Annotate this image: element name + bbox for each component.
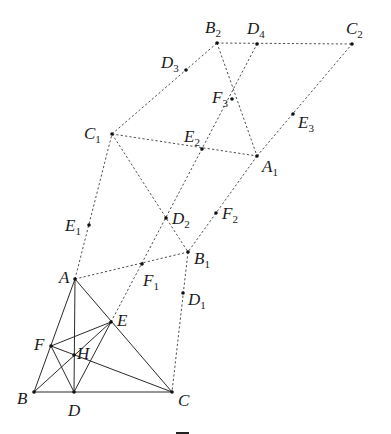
label-subscript: 1	[272, 166, 278, 178]
label-C: C	[178, 391, 190, 410]
label-E1: E1	[64, 216, 81, 237]
label-D3: D3	[160, 53, 179, 74]
label-base: D	[171, 209, 185, 228]
point-A	[73, 277, 77, 281]
label-F: F	[33, 335, 45, 354]
points	[32, 41, 354, 394]
label-subscript: 1	[204, 258, 210, 270]
label-base: F	[211, 88, 223, 107]
geometry-figure: ABCDEFHA1B1C1D1E1F1B2C2D2E2F2D3E3F3D4	[0, 0, 391, 434]
dashed-segment-C1-B1	[112, 134, 188, 252]
label-subscript: 4	[259, 28, 265, 40]
point-C2	[350, 42, 354, 46]
label-subscript: 1	[75, 225, 81, 237]
label-base: D	[187, 290, 201, 309]
solid-segment-B-E	[34, 322, 111, 392]
label-base: E	[116, 311, 128, 330]
label-subscript: 3	[308, 122, 314, 134]
label-E3: E3	[297, 113, 314, 134]
label-base: A	[261, 157, 273, 176]
point-B	[32, 390, 36, 394]
label-E: E	[116, 311, 128, 330]
point-D1	[181, 291, 185, 295]
dashed-segment-A-C1	[75, 134, 112, 279]
label-D2: D2	[171, 209, 190, 230]
dashed-segment-B2-C2	[217, 43, 352, 44]
label-base: D	[160, 53, 174, 72]
point-D	[72, 390, 76, 394]
solid-segment-A-D	[74, 279, 75, 392]
label-B1: B1	[194, 249, 210, 270]
label-base: B	[194, 249, 205, 268]
label-E2: E2	[183, 127, 200, 148]
label-base: F	[33, 335, 45, 354]
label-C1: C1	[84, 124, 101, 145]
point-E1	[87, 223, 91, 227]
dashed-segment-A-B1	[75, 252, 188, 279]
point-B2	[215, 41, 219, 45]
label-subscript: 3	[222, 97, 228, 109]
label-C2: C2	[346, 19, 363, 40]
label-subscript: 2	[194, 136, 200, 148]
label-base: A	[58, 268, 70, 287]
point-E2	[200, 147, 204, 151]
label-base: E	[64, 216, 76, 235]
dashed-segment-B1-C	[172, 252, 188, 392]
label-subscript: 2	[357, 28, 363, 40]
point-D2	[164, 216, 168, 220]
label-base: E	[183, 127, 195, 146]
label-subscript: 2	[184, 218, 190, 230]
label-D: D	[67, 401, 81, 420]
solid-lines	[34, 279, 172, 392]
label-B: B	[17, 389, 28, 408]
label-subscript: 2	[232, 213, 238, 225]
solid-segment-A-C	[75, 279, 172, 392]
label-base: D	[67, 401, 81, 420]
label-base: H	[76, 344, 91, 363]
label-base: D	[246, 19, 260, 38]
label-subscript: 2	[215, 27, 221, 39]
point-F2	[214, 211, 218, 215]
label-base: C	[346, 19, 358, 38]
label-F2: F2	[221, 204, 238, 225]
point-H	[72, 353, 76, 357]
label-subscript: 3	[173, 62, 179, 74]
label-base: B	[17, 389, 28, 408]
label-D4: D4	[246, 19, 265, 40]
point-B1	[186, 250, 190, 254]
label-base: C	[178, 391, 190, 410]
label-base: F	[142, 271, 154, 290]
label-B2: B2	[205, 18, 221, 39]
label-subscript: 1	[153, 280, 159, 292]
label-F1: F1	[142, 271, 159, 292]
point-F1	[140, 262, 144, 266]
solid-segment-C-F	[51, 346, 172, 392]
point-E3	[291, 112, 295, 116]
point-D3	[184, 68, 188, 72]
label-base: B	[205, 18, 216, 37]
solid-segment-F-E	[51, 322, 111, 346]
point-F	[49, 344, 53, 348]
label-A1: A1	[261, 157, 278, 178]
point-D4	[255, 42, 259, 46]
point-A1	[255, 154, 259, 158]
label-base: E	[297, 113, 309, 132]
label-subscript: 1	[95, 133, 101, 145]
label-subscript: 1	[200, 299, 206, 311]
dashed-segment-E-D4	[111, 44, 257, 322]
point-E	[109, 320, 113, 324]
point-C	[170, 390, 174, 394]
label-D1: D1	[187, 290, 206, 311]
label-base: C	[84, 124, 96, 143]
label-H: H	[76, 344, 91, 363]
label-F3: F3	[211, 88, 228, 109]
dashed-segment-A1-C2	[257, 44, 352, 156]
point-C1	[110, 132, 114, 136]
label-base: F	[221, 204, 233, 223]
label-A: A	[58, 268, 70, 287]
point-F3	[230, 97, 234, 101]
